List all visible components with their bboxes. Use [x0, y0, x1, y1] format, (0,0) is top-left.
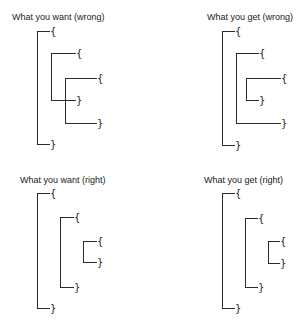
open-brace: { [97, 236, 103, 247]
bracket-level-3: {} [247, 73, 288, 106]
close-brace: } [50, 303, 56, 314]
bracket-connector-line [52, 54, 76, 101]
open-brace: { [97, 73, 103, 84]
close-brace: } [281, 118, 287, 129]
open-brace: { [235, 188, 241, 199]
close-brace: } [235, 140, 241, 151]
close-brace: } [74, 282, 80, 293]
bracket-level-3: {} [84, 236, 104, 268]
close-brace: } [258, 282, 264, 293]
open-brace: { [281, 73, 287, 84]
close-brace: } [50, 139, 56, 150]
panel-want-wrong: {}{}{} [38, 26, 104, 150]
open-brace: { [280, 236, 286, 247]
bracket-connector-line [223, 194, 235, 309]
bracket-level-1: {} [38, 26, 57, 150]
bracket-connector-line [38, 194, 50, 309]
bracket-level-2: {} [61, 212, 81, 293]
panel-get-wrong: {}{}{} [223, 26, 288, 151]
bracket-level-1: {} [38, 188, 57, 314]
panel-get-right: {}{}{} [223, 188, 287, 314]
bracket-connector-line [223, 32, 235, 146]
bracket-level-2: {} [246, 213, 265, 293]
bracket-connector-line [84, 242, 97, 263]
close-brace: } [280, 258, 286, 269]
bracket-connector-line [237, 54, 281, 124]
bracket-level-2: {} [52, 48, 83, 106]
bracket-connector-line [61, 218, 74, 288]
open-brace: { [235, 26, 241, 37]
close-brace: } [76, 95, 82, 106]
close-brace: } [97, 118, 103, 129]
bracket-connector-line [246, 219, 258, 288]
bracket-level-2: {} [237, 48, 288, 129]
bracket-level-1: {} [223, 188, 242, 314]
close-brace: } [259, 95, 265, 106]
open-brace: { [258, 213, 264, 224]
bracket-nesting-diagram: {}{}{}{}{}{}{}{}{}{}{}{} [0, 0, 305, 327]
open-brace: { [259, 48, 265, 59]
bracket-connector-line [38, 32, 50, 145]
open-brace: { [76, 48, 82, 59]
open-brace: { [50, 188, 56, 199]
open-brace: { [74, 212, 80, 223]
panel-want-right: {}{}{} [38, 188, 104, 314]
bracket-level-3: {} [269, 236, 287, 269]
bracket-connector-line [269, 242, 280, 264]
close-brace: } [97, 257, 103, 268]
open-brace: { [50, 26, 56, 37]
bracket-level-1: {} [223, 26, 242, 151]
close-brace: } [235, 303, 241, 314]
